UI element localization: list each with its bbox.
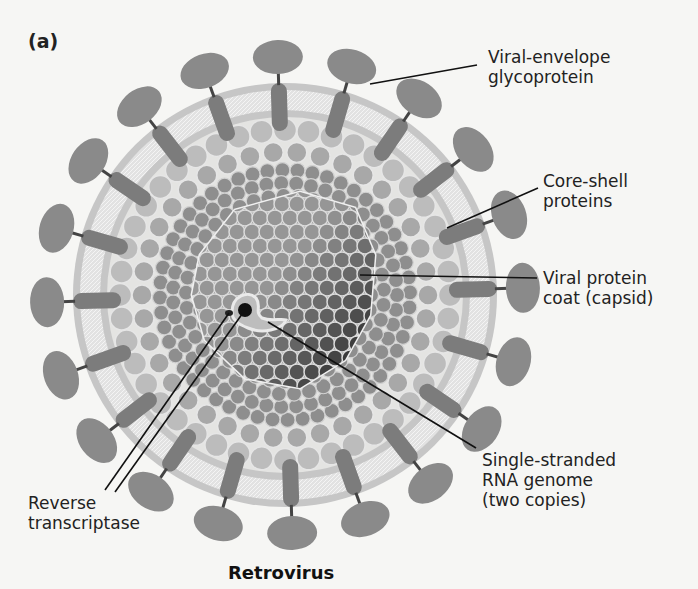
label-line: glycoprotein bbox=[488, 67, 610, 87]
label-line: (two copies) bbox=[482, 490, 616, 510]
label-line: Reverse bbox=[28, 493, 140, 513]
figure-title: Retrovirus bbox=[228, 562, 334, 583]
label-line: proteins bbox=[543, 191, 628, 211]
label-viral-protein-coat: Viral protein coat (capsid) bbox=[543, 268, 653, 308]
label-reverse-transcriptase: Reverse transcriptase bbox=[28, 493, 140, 533]
panel-label: (a) bbox=[28, 30, 58, 52]
label-rna-genome: Single-stranded RNA genome (two copies) bbox=[482, 450, 616, 510]
label-line: Viral-envelope bbox=[488, 47, 610, 67]
label-viral-envelope-glycoprotein: Viral-envelope glycoprotein bbox=[488, 47, 610, 87]
label-line: coat (capsid) bbox=[543, 288, 653, 308]
label-line: Core-shell bbox=[543, 171, 628, 191]
label-line: RNA genome bbox=[482, 470, 616, 490]
label-core-shell-proteins: Core-shell proteins bbox=[543, 171, 628, 211]
label-line: Viral protein bbox=[543, 268, 653, 288]
retrovirus-diagram: (a) Viral-envelope glycoprotein Core-she… bbox=[0, 0, 698, 589]
label-line: transcriptase bbox=[28, 513, 140, 533]
label-line: Single-stranded bbox=[482, 450, 616, 470]
